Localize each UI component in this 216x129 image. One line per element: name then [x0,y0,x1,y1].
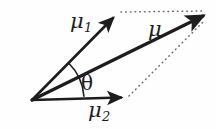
label-mu2-base: μ [88,98,102,122]
vector-mu-line [32,16,203,100]
label-mu1-subscript: 1 [84,20,92,35]
label-mu2: μ2 [88,100,110,123]
label-mu-base: μ [148,17,162,41]
label-mu2-subscript: 2 [102,109,110,124]
label-mu: μ [148,19,162,40]
construction-line-top [121,11,203,12]
vector-diagram-figure: μ1 μ2 μ θ [0,0,216,129]
construction-line-diagonal [129,20,205,96]
label-theta: θ [81,73,93,93]
label-mu1: μ1 [70,11,92,34]
label-mu1-base: μ [70,9,84,33]
